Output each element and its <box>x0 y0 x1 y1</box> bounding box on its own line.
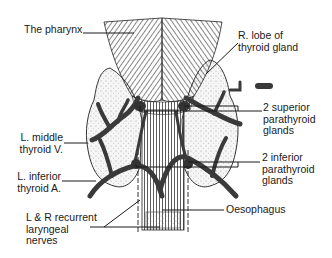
anatomy-diagram: The pharynx R. lobe of thyroid gland 2 s… <box>0 0 332 258</box>
label-r-lobe-thyroid: R. lobe of thyroid gland <box>238 30 298 53</box>
label-pharynx: The pharynx <box>24 24 82 36</box>
label-inferior-parathyroid: 2 inferior parathyroid glands <box>262 152 315 187</box>
label-oesophagus: Oesophagus <box>226 204 286 216</box>
oesophagus <box>138 110 188 232</box>
label-recurrent-laryngeal-nerves: L & R recurrent laryngeal nerves <box>26 212 97 247</box>
label-l-inferior-thyroid-a: L. inferior thyroid A. <box>0 171 61 194</box>
label-l-middle-thyroid-v: L. middle thyroid V. <box>0 132 63 155</box>
label-superior-parathyroid: 2 superior parathyroid glands <box>263 102 316 137</box>
